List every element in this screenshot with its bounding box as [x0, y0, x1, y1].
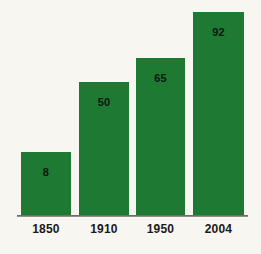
x-tick-label-1950: 1950: [136, 220, 185, 238]
bar-value-label: 65: [136, 72, 185, 84]
bar-value-label: 8: [21, 166, 71, 178]
x-tick-label-2004: 2004: [193, 220, 244, 238]
bar-2004[interactable]: 92: [193, 12, 244, 215]
bar-1850[interactable]: 8: [21, 152, 71, 215]
x-axis-line: [17, 215, 248, 217]
bar-chart: 8 50 65 92 1850 1910 1950 2004: [0, 0, 261, 254]
x-axis-tick-labels: 1850 1910 1950 2004: [0, 220, 261, 242]
bar-value-label: 92: [193, 26, 244, 38]
x-tick-label-1910: 1910: [79, 220, 129, 238]
plot-area: 8 50 65 92: [0, 0, 261, 215]
x-tick-label-1850: 1850: [21, 220, 71, 238]
bar-1910[interactable]: 50: [79, 82, 129, 215]
bar-value-label: 50: [79, 96, 129, 108]
bar-1950[interactable]: 65: [136, 58, 185, 215]
